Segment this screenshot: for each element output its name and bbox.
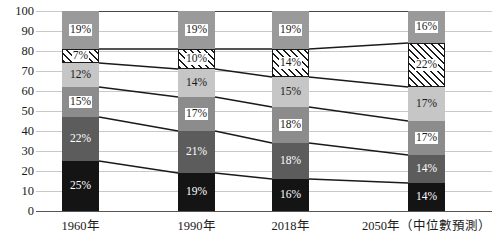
y-tick-label-50: 50 <box>4 105 34 118</box>
y-tick-label-20: 20 <box>4 165 34 178</box>
connector-line <box>309 77 408 87</box>
connector-line <box>215 131 272 143</box>
connector-line <box>215 97 272 107</box>
y-tick-label-80: 80 <box>4 45 34 58</box>
y-tick-label-90: 90 <box>4 25 34 38</box>
segment-connector-lines <box>36 11 492 211</box>
x-tick-label-3: 2018年 <box>272 215 310 234</box>
y-tick-label-100: 100 <box>4 5 34 18</box>
y-tick-label-30: 30 <box>4 145 34 158</box>
connector-line <box>215 173 272 179</box>
y-tick-label-70: 70 <box>4 65 34 78</box>
connector-line <box>99 87 178 97</box>
connector-line <box>309 107 408 121</box>
x-tick-label-1: 1960年 <box>62 215 100 234</box>
y-tick-label-0: 0 <box>4 205 34 218</box>
connector-line <box>309 43 408 49</box>
y-tick-label-10: 10 <box>4 185 34 198</box>
connector-line <box>215 69 272 77</box>
connector-line <box>99 117 178 131</box>
gridline-0 <box>36 211 492 212</box>
y-tick-label-60: 60 <box>4 85 34 98</box>
y-tick-label-40: 40 <box>4 125 34 138</box>
connector-line <box>309 143 408 155</box>
stacked-bar-chart: 0102030405060708090100 25%22%15%12%7%19%… <box>0 0 499 241</box>
connector-line <box>99 161 178 173</box>
x-tick-label-4: 2050年（中位數預測） <box>362 215 491 234</box>
connector-line <box>99 63 178 69</box>
x-tick-label-2: 1990年 <box>178 215 216 234</box>
connector-line <box>309 179 408 183</box>
plot-area: 25%22%15%12%7%19%19%21%17%14%10%19%16%18… <box>36 11 492 211</box>
y-axis: 0102030405060708090100 <box>0 0 34 241</box>
